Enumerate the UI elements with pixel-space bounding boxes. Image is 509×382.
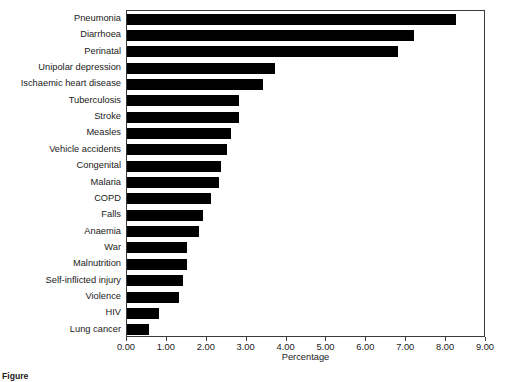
- bar-row: [127, 93, 484, 109]
- bar-row: [127, 158, 484, 174]
- bar: [127, 275, 183, 286]
- category-label: Violence: [86, 288, 122, 304]
- category-label: Unipolar depression: [38, 59, 121, 75]
- category-label: Congenital: [77, 157, 121, 173]
- bar: [127, 128, 231, 139]
- bar-row: [127, 207, 484, 223]
- x-tick-label: 2.00: [197, 342, 215, 352]
- bar: [127, 144, 227, 155]
- category-label: War: [104, 239, 121, 255]
- x-tick-label: 6.00: [356, 342, 374, 352]
- bar-row: [127, 60, 484, 76]
- bar-series: [127, 11, 484, 336]
- bar-row: [127, 44, 484, 60]
- x-tick-mark: [166, 337, 167, 341]
- x-tick-mark: [246, 337, 247, 341]
- x-tick-mark: [206, 337, 207, 341]
- bar-row: [127, 289, 484, 305]
- bar-row: [127, 322, 484, 338]
- category-label: Tuberculosis: [69, 92, 121, 108]
- x-tick-label: 0.00: [117, 342, 135, 352]
- x-tick-label: 9.00: [476, 342, 494, 352]
- plot-area: [126, 10, 485, 337]
- category-label: Falls: [101, 206, 121, 222]
- bar-row: [127, 175, 484, 191]
- category-label: Perinatal: [84, 43, 121, 59]
- bar: [127, 112, 239, 123]
- category-label: Pneumonia: [74, 10, 121, 26]
- bar-row: [127, 11, 484, 27]
- bar-row: [127, 142, 484, 158]
- x-tick-label: 3.00: [237, 342, 255, 352]
- category-label: Self-inflicted injury: [46, 272, 121, 288]
- bar: [127, 177, 219, 188]
- x-tick-label: 5.00: [316, 342, 334, 352]
- x-tick-mark: [325, 337, 326, 341]
- bar-row: [127, 256, 484, 272]
- bar: [127, 324, 149, 335]
- x-tick-mark: [126, 337, 127, 341]
- bar-row: [127, 273, 484, 289]
- category-axis-labels: PneumoniaDiarrhoeaPerinatalUnipolar depr…: [0, 10, 124, 337]
- caption-label: Figure: [2, 371, 28, 381]
- category-label: Lung cancer: [70, 321, 121, 337]
- x-tick-mark: [485, 337, 486, 341]
- bar: [127, 210, 203, 221]
- bar: [127, 46, 398, 57]
- x-tick-label: 4.00: [276, 342, 294, 352]
- x-tick-label: 7.00: [396, 342, 414, 352]
- bar: [127, 259, 187, 270]
- category-label: HIV: [106, 304, 122, 320]
- bar-row: [127, 240, 484, 256]
- bar-row: [127, 27, 484, 43]
- bar: [127, 95, 239, 106]
- x-tick-mark: [405, 337, 406, 341]
- bar: [127, 14, 456, 25]
- bar: [127, 308, 159, 319]
- category-label: Malnutrition: [73, 255, 121, 271]
- category-label: Diarrhoea: [80, 26, 121, 42]
- x-tick-mark: [286, 337, 287, 341]
- figure-caption: Figure: [2, 371, 507, 381]
- bar-row: [127, 109, 484, 125]
- bar-row: [127, 191, 484, 207]
- bar-row: [127, 305, 484, 321]
- category-label: Vehicle accidents: [49, 141, 121, 157]
- x-tick-mark: [445, 337, 446, 341]
- x-tick-label: 8.00: [436, 342, 454, 352]
- bar-row: [127, 125, 484, 141]
- category-label: Ischaemic heart disease: [21, 75, 121, 91]
- x-axis-title: Percentage: [126, 352, 485, 362]
- bar: [127, 161, 221, 172]
- category-label: Stroke: [94, 108, 121, 124]
- bar: [127, 226, 199, 237]
- bar: [127, 30, 414, 41]
- bar: [127, 242, 187, 253]
- category-label: Measles: [86, 124, 121, 140]
- category-label: Anaemia: [84, 223, 121, 239]
- category-label: Malaria: [91, 174, 121, 190]
- bar-row: [127, 76, 484, 92]
- bar-chart-figure: PneumoniaDiarrhoeaPerinatalUnipolar depr…: [0, 0, 509, 382]
- category-label: COPD: [94, 190, 121, 206]
- bar: [127, 292, 179, 303]
- bar: [127, 193, 211, 204]
- bar-row: [127, 224, 484, 240]
- bar: [127, 63, 275, 74]
- x-tick-label: 1.00: [157, 342, 175, 352]
- bar: [127, 79, 263, 90]
- x-tick-mark: [365, 337, 366, 341]
